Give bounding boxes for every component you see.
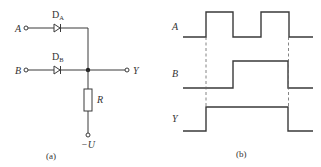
resistor-label: R [96, 94, 103, 105]
timing-diagram: A B Y (b) [171, 12, 313, 159]
input-b-label: B [15, 65, 21, 76]
output-y-label: Y [133, 65, 140, 76]
wave-a-label: A [171, 21, 179, 32]
waveform-a [183, 12, 313, 37]
resistor-icon [84, 89, 92, 111]
caption-b: (b) [236, 149, 247, 159]
wave-y-label: Y [172, 113, 179, 124]
input-a-terminal [24, 26, 28, 30]
diode-a-icon [54, 24, 61, 32]
input-a-label: A [14, 23, 22, 34]
waveform-y [183, 107, 313, 131]
input-b-terminal [24, 68, 28, 72]
supply-label: −U [81, 139, 96, 150]
waveform-b [183, 61, 313, 88]
diode-b-label: DB [52, 51, 64, 63]
wave-b-label: B [172, 68, 178, 79]
output-y-terminal [125, 68, 129, 72]
caption-a: (a) [46, 151, 56, 161]
circuit-diagram: A DA B DB Y R [14, 9, 140, 161]
supply-terminal [86, 133, 90, 137]
diode-b-icon [54, 66, 61, 74]
diode-a-label: DA [52, 9, 64, 21]
diode-or-gate-figure: A DA B DB Y R [0, 0, 321, 167]
